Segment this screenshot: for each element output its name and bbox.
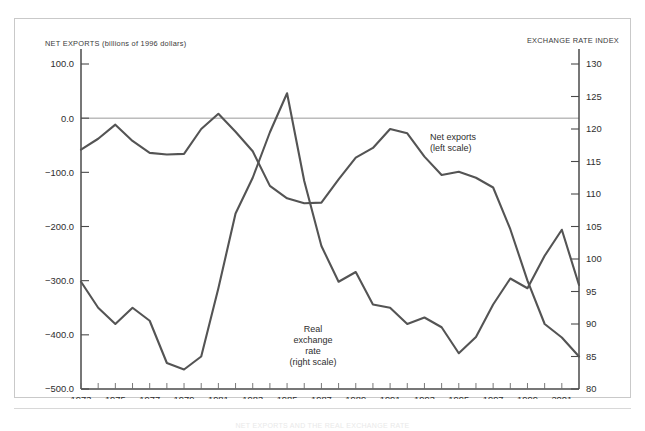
x-axis-tick-label: 1985	[277, 394, 298, 399]
left-axis-tick-label: −100.0	[45, 167, 74, 178]
annotation-real-rate-line3: rate	[305, 346, 321, 356]
right-axis-tick-label: 80	[586, 383, 596, 394]
x-axis-tick-label: 1989	[345, 394, 366, 399]
left-axis-tick-label: −200.0	[45, 221, 74, 232]
left-axis-tick-label: −300.0	[45, 275, 74, 286]
x-axis-tick-label: 1997	[483, 394, 504, 399]
left-axis-tick-label: 100.0	[51, 58, 74, 69]
right-axis-tick-label: 110	[586, 188, 601, 199]
right-axis-tick-label: 85	[586, 351, 596, 362]
x-axis-tick-label: 1987	[311, 394, 332, 399]
right-axis-tick-label: 120	[586, 123, 602, 134]
chart-svg: NET EXPORTS (billions of 1996 dollars)EX…	[15, 19, 632, 399]
annotation-net-exports-line2: (left scale)	[430, 143, 472, 153]
right-axis-title: EXCHANGE RATE INDEX	[527, 36, 619, 45]
annotation-real-rate-line1: Real	[304, 324, 323, 334]
x-axis-tick-label: 1977	[139, 394, 160, 399]
x-axis-tick-label: 1983	[242, 394, 263, 399]
x-axis-tick-label: 1991	[380, 394, 401, 399]
x-axis-tick-label: 1979	[174, 394, 195, 399]
right-axis-tick-label: 115	[586, 156, 601, 167]
left-axis-tick-label: −400.0	[45, 329, 74, 340]
x-axis-tick-label: 1981	[208, 394, 229, 399]
right-axis-tick-label: 125	[586, 91, 602, 102]
right-axis-tick-label: 100	[586, 253, 602, 264]
x-axis-tick-label: 1999	[517, 394, 538, 399]
x-axis-tick-label: 1995	[448, 394, 469, 399]
right-axis-tick-label: 90	[586, 318, 596, 329]
annotation-real-rate-line4: (right scale)	[289, 357, 336, 367]
figure-page: NET EXPORTS (billions of 1996 dollars)EX…	[0, 0, 645, 431]
right-axis-tick-label: 105	[586, 221, 602, 232]
annotation-net-exports-line1: Net exports	[430, 132, 477, 142]
left-axis-tick-label: 0.0	[61, 113, 74, 124]
footer-caption: NET EXPORTS AND THE REAL EXCHANGE RATE	[14, 422, 631, 429]
x-axis-tick-label: 1993	[414, 394, 435, 399]
chart-frame: NET EXPORTS (billions of 1996 dollars)EX…	[14, 18, 631, 398]
right-axis-tick-label: 130	[586, 58, 602, 69]
series-line-real-exchange-rate	[81, 93, 579, 369]
left-axis-title: NET EXPORTS (billions of 1996 dollars)	[45, 39, 187, 48]
x-axis-tick-label: 1975	[105, 394, 126, 399]
footer-band: NET EXPORTS AND THE REAL EXCHANGE RATE	[14, 408, 631, 431]
annotation-real-rate-line2: exchange	[293, 335, 332, 345]
x-axis-tick-label: 1973	[71, 394, 92, 399]
left-axis-tick-label: −500.0	[45, 383, 74, 394]
right-axis-tick-label: 95	[586, 286, 596, 297]
x-axis-tick-label: 2001	[551, 394, 572, 399]
series-line-net-exports	[81, 114, 579, 357]
